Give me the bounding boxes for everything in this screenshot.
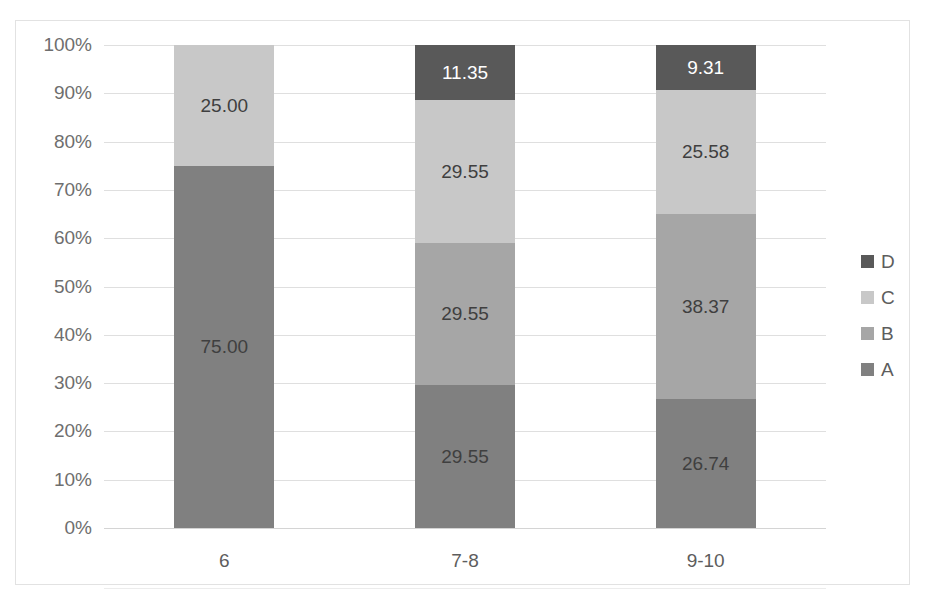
x-axis-line <box>104 528 826 529</box>
x-axis-lower-rule <box>104 588 826 589</box>
legend-label: A <box>881 360 894 379</box>
y-axis-tick-label: 0% <box>65 517 92 539</box>
plot-area: 0%10%20%30%40%50%60%70%80%90%100% 75.002… <box>104 45 826 528</box>
bar-segment-c[interactable]: 25.58 <box>656 90 756 214</box>
legend-label: B <box>881 324 894 343</box>
x-axis-tick-label: 9-10 <box>626 550 786 572</box>
stacked-bar[interactable]: 26.7438.3725.589.31 <box>656 45 756 528</box>
y-axis-tick-label: 40% <box>54 324 92 346</box>
legend-item-b[interactable]: B <box>861 315 895 351</box>
legend-item-c[interactable]: C <box>861 279 895 315</box>
legend-item-d[interactable]: D <box>861 243 895 279</box>
chart-frame: 0%10%20%30%40%50%60%70%80%90%100% 75.002… <box>15 20 910 585</box>
stacked-bar[interactable]: 75.0025.00 <box>174 45 274 528</box>
y-axis-tick-label: 80% <box>54 131 92 153</box>
bar-segment-value-label: 29.55 <box>441 304 489 323</box>
legend-swatch-icon <box>861 327 874 340</box>
bar-segment-value-label: 9.31 <box>687 58 724 77</box>
x-axis-tick-label: 7-8 <box>385 550 545 572</box>
bar-segment-value-label: 29.55 <box>441 447 489 466</box>
y-axis-tick-label: 60% <box>54 227 92 249</box>
y-axis-tick-label: 50% <box>54 276 92 298</box>
bar-segment-a[interactable]: 75.00 <box>174 166 274 528</box>
chart-legend: DCBA <box>861 243 895 387</box>
bar-segment-b[interactable]: 29.55 <box>415 243 515 386</box>
bar-segment-value-label: 25.00 <box>201 96 249 115</box>
legend-label: C <box>881 288 895 307</box>
bar-segment-value-label: 25.58 <box>682 142 730 161</box>
bar-segment-value-label: 38.37 <box>682 297 730 316</box>
y-axis-tick-label: 20% <box>54 420 92 442</box>
bar-segment-value-label: 11.35 <box>442 63 488 82</box>
legend-swatch-icon <box>861 255 874 268</box>
bar-segment-value-label: 75.00 <box>201 337 249 356</box>
bar-segment-c[interactable]: 29.55 <box>415 100 515 243</box>
bar-segment-value-label: 26.74 <box>682 454 730 473</box>
bar-segment-b[interactable]: 38.37 <box>656 214 756 399</box>
bar-segment-d[interactable]: 11.35 <box>415 45 515 100</box>
y-axis-tick-label: 30% <box>54 372 92 394</box>
bar-segment-d[interactable]: 9.31 <box>656 45 756 90</box>
bar-segment-value-label: 29.55 <box>441 162 489 181</box>
legend-swatch-icon <box>861 363 874 376</box>
legend-swatch-icon <box>861 291 874 304</box>
y-axis-tick-label: 100% <box>43 34 92 56</box>
y-axis-tick-label: 70% <box>54 179 92 201</box>
bar-segment-a[interactable]: 29.55 <box>415 385 515 528</box>
y-axis-tick-label: 90% <box>54 82 92 104</box>
legend-label: D <box>881 252 895 271</box>
y-axis-tick-label: 10% <box>54 469 92 491</box>
bar-segment-c[interactable]: 25.00 <box>174 45 274 166</box>
stacked-bar[interactable]: 29.5529.5529.5511.35 <box>415 45 515 528</box>
legend-item-a[interactable]: A <box>861 351 895 387</box>
x-axis-tick-label: 6 <box>144 550 304 572</box>
bar-segment-a[interactable]: 26.74 <box>656 399 756 528</box>
